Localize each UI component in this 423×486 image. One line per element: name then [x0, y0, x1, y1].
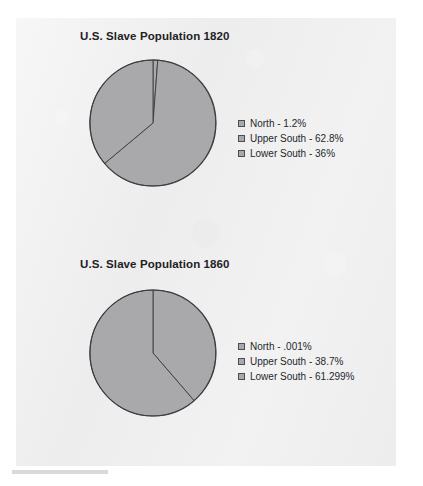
- pie-chart-1820: [88, 58, 218, 192]
- chart-title-1860: U.S. Slave Population 1860: [80, 258, 230, 270]
- legend-label-upper-south-1820: Upper South - 62.8%: [250, 133, 343, 144]
- pie-chart-1860: [88, 288, 218, 422]
- legend-swatch-icon: [238, 373, 245, 380]
- legend-label-upper-south-1860: Upper South - 38.7%: [250, 356, 343, 367]
- legend-1860: North - .001% Upper South - 38.7% Lower …: [238, 341, 355, 382]
- legend-label-north-1860: North - .001%: [250, 341, 312, 352]
- legend-swatch-icon: [238, 135, 245, 142]
- legend-item-north-1820: North - 1.2%: [238, 118, 343, 129]
- legend-item-north-1860: North - .001%: [238, 341, 355, 352]
- scanned-page: U.S. Slave Population 1820 North - 1.2% …: [0, 0, 423, 486]
- legend-label-lower-south-1820: Lower South - 36%: [250, 148, 335, 159]
- pie-svg-1820: [88, 58, 218, 188]
- legend-swatch-icon: [238, 343, 245, 350]
- legend-swatch-icon: [238, 358, 245, 365]
- legend-1820: North - 1.2% Upper South - 62.8% Lower S…: [238, 118, 343, 159]
- legend-swatch-icon: [238, 150, 245, 157]
- legend-swatch-icon: [238, 120, 245, 127]
- scan-streak-artifact: [12, 470, 108, 474]
- legend-item-upper-south-1820: Upper South - 62.8%: [238, 133, 343, 144]
- legend-item-upper-south-1860: Upper South - 38.7%: [238, 356, 355, 367]
- pie-svg-1860: [88, 288, 218, 418]
- legend-item-lower-south-1860: Lower South - 61.299%: [238, 371, 355, 382]
- legend-label-north-1820: North - 1.2%: [250, 118, 306, 129]
- legend-label-lower-south-1860: Lower South - 61.299%: [250, 371, 355, 382]
- chart-title-1820: U.S. Slave Population 1820: [80, 30, 230, 42]
- legend-item-lower-south-1820: Lower South - 36%: [238, 148, 343, 159]
